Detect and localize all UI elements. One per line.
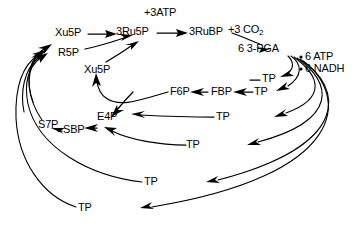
label-xu5p-mid: Xu5P bbox=[84, 64, 110, 75]
label-tp-right-1: TP bbox=[262, 73, 276, 84]
label-tp-right-2: TP bbox=[254, 86, 268, 97]
label-6-3-pga: 6 3-PGA bbox=[238, 43, 279, 54]
label-6-nadh: 6 NADH bbox=[305, 63, 344, 74]
label-sbp: SBP bbox=[63, 124, 84, 135]
label-e4p: E4P bbox=[97, 111, 117, 122]
label-6-atp: 6 ATP bbox=[305, 51, 333, 62]
label-r5p: R5P bbox=[58, 47, 79, 58]
edge-tp-mid2-to-sbp bbox=[104, 127, 186, 145]
label-tp-mid: TP bbox=[216, 111, 230, 122]
label-s7p: S7P bbox=[38, 119, 58, 130]
edge-pga-to-tp-1 bbox=[280, 56, 294, 77]
label-xu5p-top: Xu5P bbox=[55, 27, 81, 38]
edge-tp-mid-to-e4p bbox=[131, 111, 214, 118]
edge-xu5p-to-ru5p bbox=[88, 30, 117, 38]
co2-text: +3 CO bbox=[228, 23, 259, 35]
bullet-dot-atp bbox=[299, 55, 302, 58]
label-tp-low: TP bbox=[144, 176, 158, 187]
pathway-graphics bbox=[0, 0, 359, 225]
edge-ru5p-to-rubp bbox=[157, 29, 188, 37]
edge-pga-to-tp-6 bbox=[140, 61, 328, 209]
edge-left-return-r5p bbox=[23, 58, 38, 112]
diagram-canvas: +3ATP Xu5P 3Ru5P 3RuBP +3 CO2 R5P 6 3-PG… bbox=[0, 0, 359, 225]
label-plus-3-co2: +3 CO2 bbox=[228, 24, 263, 37]
edge-f6p-to-xu5p-mid bbox=[92, 73, 168, 103]
co2-subscript: 2 bbox=[259, 28, 263, 37]
label-3ru5p: 3Ru5P bbox=[116, 26, 149, 37]
label-3rubp: 3RuBP bbox=[189, 26, 223, 37]
edge-tp-to-fbp bbox=[233, 88, 253, 96]
label-tp-bottom: TP bbox=[78, 202, 92, 213]
label-plus-3-atp: +3ATP bbox=[144, 7, 176, 18]
label-fbp: FBP bbox=[211, 86, 232, 97]
edge-fbp-to-f6p bbox=[190, 88, 208, 96]
bullet-dot-nadh bbox=[299, 67, 302, 70]
label-tp-mid-2: TP bbox=[186, 139, 200, 150]
label-f6p: F6P bbox=[170, 86, 190, 97]
edge-xu5p-mid-to-ru5p bbox=[106, 41, 139, 62]
edge-e4p-to-sbp bbox=[84, 124, 98, 132]
